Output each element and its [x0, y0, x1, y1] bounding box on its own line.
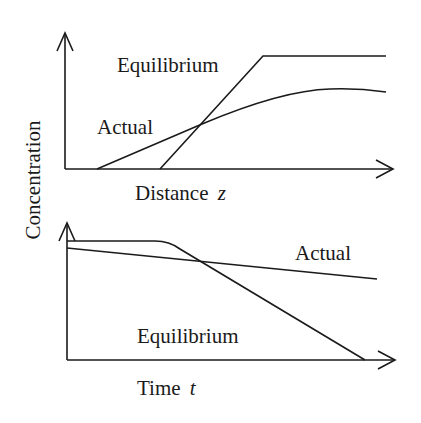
distance-variable: z	[217, 181, 226, 205]
bottom-equilibrium-label: Equilibrium	[137, 324, 239, 348]
bottom-actual-label: Actual	[295, 241, 351, 265]
top-panel: Equilibrium Actual Distance z	[57, 33, 393, 205]
bottom-x-axis-label: Time t	[137, 376, 197, 400]
diagram-canvas: Concentration Equilibrium Actual Distanc…	[0, 0, 421, 423]
top-equilibrium-label: Equilibrium	[117, 53, 219, 77]
bottom-panel: Actual Equilibrium Time t	[59, 223, 395, 400]
concentration-diagram: Concentration Equilibrium Actual Distanc…	[0, 0, 421, 423]
time-variable: t	[190, 376, 197, 400]
time-word: Time	[137, 376, 181, 400]
top-actual-label: Actual	[97, 115, 153, 139]
distance-word: Distance	[135, 181, 208, 205]
top-x-axis-label: Distance z	[135, 181, 226, 205]
y-axis-label: Concentration	[21, 120, 45, 239]
